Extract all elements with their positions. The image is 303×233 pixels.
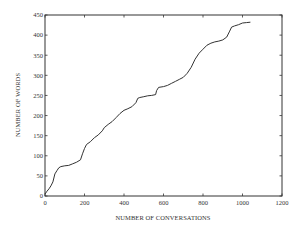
x-axis-ticks: 020040060080010001200 — [43, 15, 288, 206]
x-tick-label: 400 — [119, 199, 129, 206]
x-tick-label: 800 — [198, 199, 208, 206]
line-chart: 020040060080010001200 050100150200250300… — [0, 0, 303, 233]
x-tick-label: 0 — [43, 199, 46, 206]
y-tick-label: 50 — [37, 172, 44, 179]
x-tick-label: 600 — [159, 199, 169, 206]
data-series — [45, 22, 250, 194]
y-tick-label: 200 — [33, 112, 43, 119]
series-line — [45, 22, 250, 194]
x-tick-label: 1200 — [276, 199, 289, 206]
y-tick-label: 400 — [33, 31, 43, 38]
y-tick-label: 450 — [33, 11, 43, 18]
y-tick-label: 250 — [33, 92, 43, 99]
y-tick-label: 150 — [33, 132, 43, 139]
x-tick-label: 200 — [80, 199, 90, 206]
y-tick-label: 300 — [33, 72, 43, 79]
y-tick-label: 0 — [40, 192, 43, 199]
x-axis-title: NUMBER OF CONVERSATIONS — [115, 214, 210, 221]
y-axis-title: NUMBER OF WORDS — [14, 73, 21, 138]
y-tick-label: 100 — [33, 152, 43, 159]
y-axis-ticks: 050100150200250300350400450 — [33, 11, 282, 199]
y-tick-label: 350 — [33, 52, 43, 59]
plot-frame — [45, 15, 282, 196]
x-tick-label: 1000 — [236, 199, 249, 206]
